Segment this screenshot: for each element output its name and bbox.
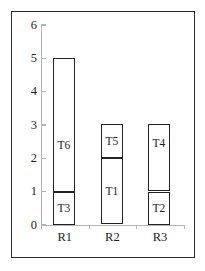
- bar-segment-r1-t6[interactable]: [53, 58, 75, 191]
- y-tick-2: [41, 158, 46, 159]
- y-tick-label-4: 4: [21, 85, 37, 98]
- bar-segment-r3-t4[interactable]: [148, 124, 170, 191]
- y-tick-label-3-wrap: 3: [17, 119, 37, 132]
- bar-segment-label-r2-t5: T5: [97, 136, 127, 148]
- bar-segment-label-r3-t4: T4: [144, 138, 174, 150]
- y-tick-label-5: 5: [21, 52, 37, 65]
- y-tick-4: [41, 91, 46, 92]
- plot-area: 0 1 2 3 4 5 6 R1 R2 R3 T6: [0, 0, 205, 271]
- x-tick-sep-1: [89, 225, 90, 230]
- bar-segment-label-r3-t2: T2: [144, 203, 174, 215]
- x-tick-label-r2: R2: [92, 231, 132, 244]
- chart-figure: 0 1 2 3 4 5 6 R1 R2 R3 T6: [0, 0, 205, 271]
- y-tick-label-2-wrap: 2: [17, 152, 37, 165]
- y-tick-label-4-wrap: 4: [17, 85, 37, 98]
- x-tick-right-edge: [184, 225, 185, 230]
- y-tick-label-6-wrap: 6: [17, 19, 37, 32]
- x-tick-label-r1: R1: [45, 231, 85, 244]
- x-tick-label-r3: R3: [140, 231, 180, 244]
- bar-segment-label-r1-t3: T3: [49, 203, 79, 215]
- x-tick-left-edge: [41, 225, 42, 230]
- y-tick-label-1: 1: [21, 185, 37, 198]
- bar-segment-label-r2-t1: T1: [97, 186, 127, 198]
- y-tick-label-6: 6: [21, 19, 37, 32]
- y-tick-3: [41, 124, 46, 125]
- y-tick-1: [41, 191, 46, 192]
- y-tick-label-3: 3: [21, 119, 37, 132]
- y-tick-label-0-wrap: 0: [17, 219, 37, 232]
- y-tick-6: [41, 24, 46, 25]
- y-tick-label-2: 2: [21, 152, 37, 165]
- y-tick-label-0: 0: [21, 219, 37, 232]
- y-tick-5: [41, 58, 46, 59]
- y-tick-label-1-wrap: 1: [17, 185, 37, 198]
- y-tick-label-5-wrap: 5: [17, 52, 37, 65]
- x-tick-sep-2: [136, 225, 137, 230]
- bar-segment-label-r1-t6: T6: [49, 140, 79, 152]
